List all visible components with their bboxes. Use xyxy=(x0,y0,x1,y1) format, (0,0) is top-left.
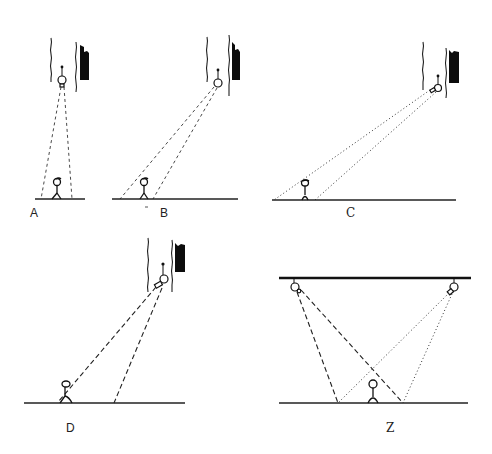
panel-label-b: B xyxy=(160,206,168,220)
panel-label-a: A xyxy=(30,206,38,220)
wall-right xyxy=(446,48,447,98)
person-icon xyxy=(368,380,378,403)
view-line-left xyxy=(59,287,156,401)
right-cam-view-far xyxy=(338,293,449,403)
person-icon xyxy=(140,178,148,199)
panel-c: C xyxy=(272,42,459,220)
camera-lens xyxy=(60,84,64,87)
view-line-right xyxy=(64,87,72,199)
panel-label-d: D xyxy=(66,421,75,435)
view-line-left xyxy=(120,87,214,199)
camera-lens xyxy=(430,88,436,93)
wall-left xyxy=(423,42,424,90)
pole-dot xyxy=(217,69,220,72)
wall-block xyxy=(232,42,240,80)
wall-right xyxy=(172,240,173,292)
pole-dot xyxy=(61,66,64,69)
wall-block xyxy=(175,243,185,272)
person-icon xyxy=(52,178,61,199)
camera-icon xyxy=(58,76,66,84)
view-line-left xyxy=(274,90,430,200)
wall-left xyxy=(148,238,149,292)
camera-icon xyxy=(214,79,222,87)
view-line-right xyxy=(114,288,162,403)
camera-lens-left xyxy=(297,289,301,293)
panel-z: Z xyxy=(279,278,471,435)
panel-a: A xyxy=(30,38,89,220)
right-cam-view-near xyxy=(403,294,452,403)
wall-block xyxy=(449,50,459,83)
left-cam-view-far xyxy=(301,290,403,403)
wall-right xyxy=(76,42,77,92)
wall-right xyxy=(229,35,230,96)
wall-block xyxy=(80,45,89,80)
pole-dot xyxy=(161,262,164,265)
pole-dot xyxy=(437,75,440,78)
view-line-right xyxy=(153,88,217,199)
camera-diagram: A B xyxy=(0,0,492,454)
panel-b: B xyxy=(112,35,240,220)
panel-label-c: C xyxy=(346,206,355,220)
wall-left xyxy=(51,38,52,82)
panel-label-z: Z xyxy=(386,421,394,435)
panel-d: D xyxy=(24,238,185,435)
wall-left xyxy=(207,37,208,82)
view-line-left xyxy=(41,87,61,199)
person-icon xyxy=(302,180,310,200)
view-line-right xyxy=(315,92,436,200)
